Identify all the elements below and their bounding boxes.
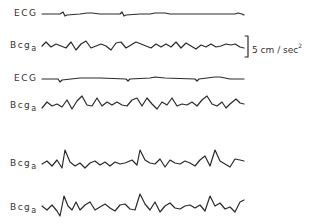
- scale-bar-bracket: [245, 36, 248, 57]
- bcg-trace-4: [42, 194, 244, 216]
- waveform-traces: [0, 0, 311, 224]
- ecg-trace-1: [42, 12, 244, 16]
- ecg-trace-2: [42, 77, 244, 82]
- scale-bar-label: 5 cm / sec2: [252, 42, 302, 55]
- bcg-trace-3: [42, 150, 244, 168]
- bcg-trace-2: [42, 96, 244, 109]
- bcg-trace-1: [42, 41, 244, 50]
